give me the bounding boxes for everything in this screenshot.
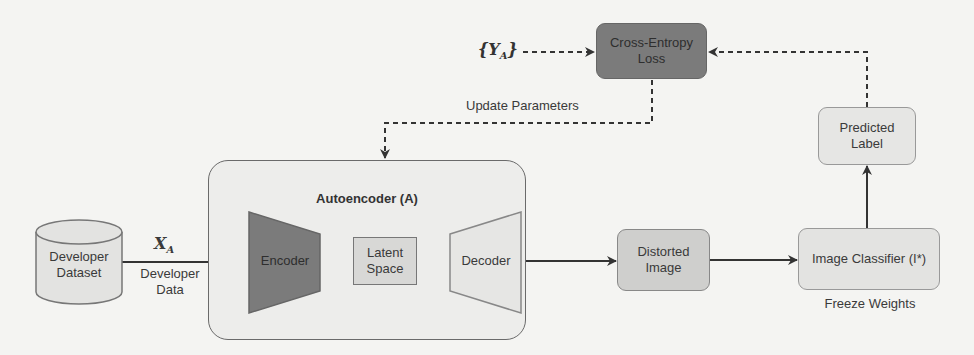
cross-entropy-loss-node: Cross-Entropy Loss <box>596 23 707 79</box>
distorted-image-node: Distorted Image <box>617 229 710 291</box>
autoencoder-title: Autoencoder (A) <box>209 191 525 206</box>
target-labels-symbol: {YA} <box>478 42 518 64</box>
freeze-weights-label: Freeze Weights <box>818 296 922 312</box>
update-parameters-label: Update Parameters <box>466 98 579 114</box>
decoder-node: Decoder <box>449 250 523 272</box>
loss-label-line1: Cross-Entropy <box>610 35 693 51</box>
encoder-node: Encoder <box>248 250 322 272</box>
developer-dataset-node: Developer Dataset <box>36 240 122 290</box>
predicted-label-node: Predicted Label <box>818 107 916 165</box>
developer-data-label: Developer Data <box>134 266 206 298</box>
update-parameters-edge <box>385 80 652 158</box>
predicted-to-loss-edge <box>709 52 867 107</box>
loss-label-line2: Loss <box>638 51 665 67</box>
input-symbol: XA <box>154 236 174 258</box>
latent-space-node: Latent Space <box>353 237 417 285</box>
image-classifier-node: Image Classifier (I*) <box>798 228 940 290</box>
